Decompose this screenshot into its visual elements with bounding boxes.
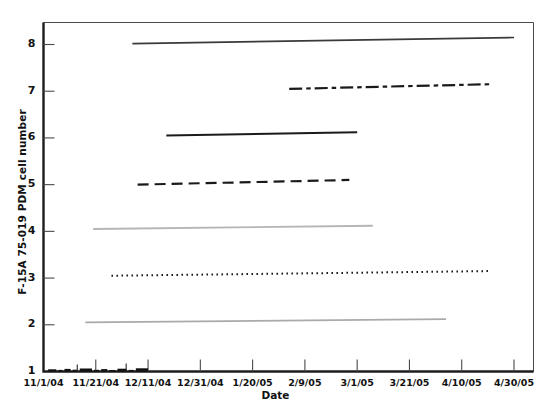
series-cell-3 xyxy=(111,271,490,276)
y-tick-marks xyxy=(44,45,55,325)
series-cell-2 xyxy=(85,319,446,322)
series-cell-7 xyxy=(289,84,490,89)
plot-area xyxy=(0,0,551,406)
chart-figure: F-15A 75-019 PDM cell number Date 123456… xyxy=(0,0,551,406)
data-series-group xyxy=(48,37,514,371)
series-cell-6 xyxy=(166,132,357,135)
series-cell-4 xyxy=(93,226,373,229)
series-cell-8 xyxy=(132,37,514,43)
x-tick-marks xyxy=(96,360,514,372)
plot-frame xyxy=(44,23,534,372)
series-cell-5 xyxy=(138,180,350,185)
